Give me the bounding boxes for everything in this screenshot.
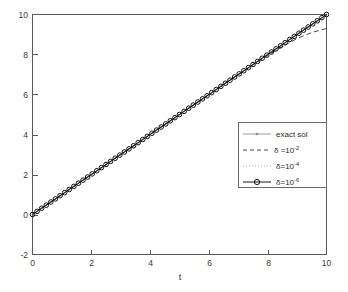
x-tick-label-0: 0	[30, 258, 35, 268]
y-tick-label-0: 0	[23, 210, 28, 220]
legend-label-delta-1e-4-exponent: -4	[294, 161, 299, 167]
x-tick-label-10: 10	[322, 258, 332, 268]
x-tick-label-6: 6	[207, 258, 212, 268]
legend: exact sol δ =10-2 δ=10-4 δ=10-6	[239, 123, 327, 188]
y-tick-label-8: 8	[23, 50, 28, 60]
legend-sample-dot-icon	[256, 133, 259, 136]
y-tick-label-neg2: -2	[20, 250, 28, 260]
y-tick-label-6: 6	[23, 90, 28, 100]
legend-label-delta-1e-6-base: δ=10	[276, 178, 295, 187]
legend-label-delta-1e-2-base: δ =10	[274, 146, 295, 155]
y-tick-label-4: 4	[23, 130, 28, 140]
y-tick-label-2: 2	[23, 170, 28, 180]
x-tick-label-4: 4	[148, 258, 153, 268]
figure-canvas: 10 8 6 4 2 0 -2 0 2 4 6 8 10 t	[0, 0, 348, 292]
legend-label-delta-1e-4-base: δ=10	[276, 162, 295, 171]
x-tick-label-2: 2	[89, 258, 94, 268]
x-axis-title: t	[179, 272, 182, 282]
y-tick-label-10: 10	[19, 10, 29, 20]
legend-label-delta-1e-2-exponent: -2	[294, 145, 299, 151]
line-chart: 10 8 6 4 2 0 -2 0 2 4 6 8 10 t	[0, 0, 348, 292]
x-tick-label-8: 8	[266, 258, 271, 268]
legend-label-delta-1e-6-exponent: -6	[294, 177, 299, 183]
legend-label-exact-sol: exact sol	[276, 130, 308, 139]
